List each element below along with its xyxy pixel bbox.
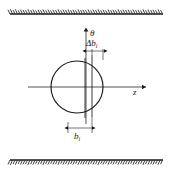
lower-boundary-hatching <box>8 160 163 165</box>
z-axis-label: z <box>132 87 137 97</box>
b-i-label: bi <box>74 131 81 142</box>
diagram-canvas: Δbi bi θ z <box>0 0 172 175</box>
upper-boundary-hatching <box>8 9 163 14</box>
technical-diagram-figure: Δbi bi θ z <box>0 0 172 175</box>
upper-boundary-wall <box>8 9 163 14</box>
theta-axis-label: θ <box>90 28 95 38</box>
lower-boundary-wall <box>8 160 163 165</box>
delta-b-i-label: Δbi <box>85 38 98 49</box>
b-i-dimension: bi <box>68 117 92 142</box>
delta-b-i-dimension: Δbi <box>85 38 104 60</box>
